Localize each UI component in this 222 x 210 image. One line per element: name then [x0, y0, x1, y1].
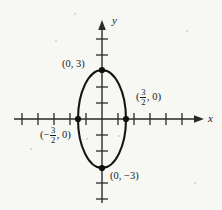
- label-left-close-paren: ): [67, 128, 71, 140]
- scan-speck: [30, 148, 32, 150]
- scan-speck: [186, 30, 188, 32]
- point-bottom-vertex: [99, 165, 105, 171]
- label-left-covertex: (−32, 0): [40, 126, 71, 145]
- label-right-close-paren: ): [157, 90, 161, 102]
- scan-speck: [86, 138, 88, 140]
- label-left-numerator: 3: [50, 126, 56, 135]
- label-left-denominator: 2: [50, 136, 56, 145]
- label-bottom-vertex-text: (0, −3): [110, 170, 139, 181]
- label-top-vertex: (0, 3): [62, 58, 85, 69]
- label-left-fraction: 32: [50, 126, 56, 145]
- ellipse-figure: y x (0, 3) (0, −3) (32, 0) (−32, 0): [0, 0, 222, 210]
- label-bottom-vertex: (0, −3): [110, 170, 139, 181]
- point-right-covertex: [123, 116, 129, 122]
- label-right-fraction: 32: [140, 88, 146, 107]
- label-top-vertex-text: (0, 3): [62, 58, 85, 69]
- scan-speck: [74, 13, 76, 15]
- scan-speck: [55, 40, 57, 42]
- scan-speck: [118, 135, 120, 137]
- x-axis-label: x: [208, 113, 213, 124]
- label-right-covertex: (32, 0): [136, 88, 161, 107]
- point-top-vertex: [99, 67, 105, 73]
- x-axis: [14, 115, 204, 123]
- label-left-sign: −: [44, 129, 50, 140]
- y-axis: [98, 20, 106, 203]
- label-right-denominator: 2: [140, 98, 146, 107]
- label-right-open-paren: (: [136, 90, 140, 102]
- point-left-covertex: [75, 116, 81, 122]
- y-axis-label: y: [112, 15, 117, 26]
- label-right-numerator: 3: [140, 88, 146, 97]
- scan-speck: [194, 182, 196, 184]
